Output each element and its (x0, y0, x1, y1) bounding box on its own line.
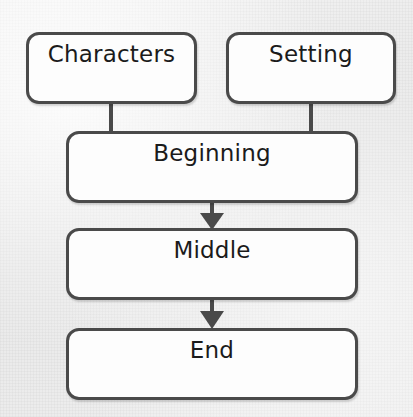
arrowhead-middle-to-end (200, 311, 224, 329)
diagram-canvas: Characters Setting Beginning Middle End (0, 0, 413, 417)
node-setting-label: Setting (229, 39, 393, 69)
node-characters-label: Characters (29, 39, 194, 69)
node-middle[interactable]: Middle (66, 228, 358, 300)
node-end-label: End (69, 335, 355, 365)
node-characters[interactable]: Characters (26, 32, 197, 104)
node-setting[interactable]: Setting (226, 32, 396, 104)
node-beginning[interactable]: Beginning (66, 131, 358, 203)
node-end[interactable]: End (66, 328, 358, 400)
node-beginning-label: Beginning (69, 138, 355, 168)
node-middle-label: Middle (69, 235, 355, 265)
